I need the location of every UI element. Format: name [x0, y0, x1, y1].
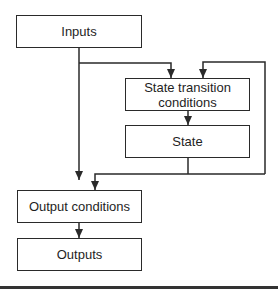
arrowhead-icon	[91, 181, 99, 190]
arrowhead-icon	[167, 69, 175, 78]
node-outputs: Outputs	[17, 238, 142, 271]
node-output-conditions-label: Output conditions	[29, 199, 130, 214]
arrowhead-icon	[75, 171, 83, 180]
node-state: State	[125, 125, 250, 158]
node-state-label: State	[172, 134, 202, 149]
node-state-transition-conditions: State transition conditions	[125, 78, 250, 111]
node-inputs-label: Inputs	[61, 24, 96, 39]
arrowhead-icon	[184, 116, 192, 125]
node-stc-label: State transition conditions	[130, 80, 245, 110]
arrowhead-icon	[75, 229, 83, 238]
node-inputs: Inputs	[16, 15, 142, 48]
arrowhead-icon	[199, 69, 207, 78]
node-output-conditions: Output conditions	[17, 190, 142, 223]
node-outputs-label: Outputs	[57, 247, 103, 262]
